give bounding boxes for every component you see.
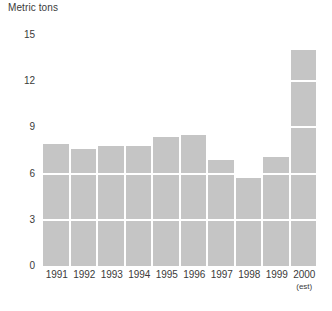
x-tick-label-text: 1999 <box>266 269 288 280</box>
y-tick-label: 15 <box>24 30 35 40</box>
gridline <box>43 126 318 128</box>
x-tick-label-text: 1994 <box>128 269 150 280</box>
x-tick-label-text: 1997 <box>211 269 233 280</box>
y-tick-label: 9 <box>29 122 35 132</box>
bar <box>126 146 152 266</box>
bar <box>236 178 262 266</box>
x-tick-label: 2000(est) <box>289 269 321 292</box>
x-tick-label-text: 1992 <box>73 269 95 280</box>
bar <box>153 137 179 266</box>
x-axis: 1991199219931994199519961997199819992000… <box>43 269 318 311</box>
bar <box>43 144 69 266</box>
y-tick-label: 12 <box>24 76 35 86</box>
bar <box>98 146 124 266</box>
gridline <box>43 80 318 82</box>
plot-area <box>43 35 318 266</box>
y-tick-label: 6 <box>29 169 35 179</box>
y-axis: 03691215 <box>0 0 41 311</box>
bar-chart: Metric tons 03691215 1991199219931994199… <box>0 0 332 311</box>
bar <box>71 149 97 266</box>
x-tick-label-text: 1993 <box>101 269 123 280</box>
x-tick-label-text: 2000 <box>293 269 315 280</box>
y-tick-label: 3 <box>29 215 35 225</box>
bar <box>208 160 234 266</box>
x-tick-label-text: 1995 <box>156 269 178 280</box>
x-tick-label-text: 1998 <box>238 269 260 280</box>
x-tick-sublabel: (est) <box>289 281 321 292</box>
bar <box>263 157 289 266</box>
x-tick-label-text: 1991 <box>46 269 68 280</box>
bar <box>291 50 317 266</box>
y-tick-label: 0 <box>29 261 35 271</box>
bar <box>181 135 207 266</box>
x-tick-label-text: 1996 <box>183 269 205 280</box>
